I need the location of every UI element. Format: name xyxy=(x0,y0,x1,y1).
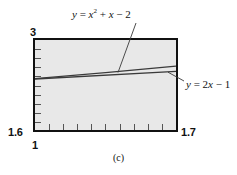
x-axis-tick xyxy=(91,124,92,130)
x-axis-max-label: 1.7 xyxy=(181,126,196,138)
line-minus: − xyxy=(216,78,222,90)
parabola-linear-term: x xyxy=(109,8,114,20)
figure-caption: (c) xyxy=(0,152,237,163)
x-axis-tick xyxy=(77,124,78,130)
y-axis-tick xyxy=(35,86,41,87)
y-axis-tick xyxy=(35,76,41,77)
y-axis-tick xyxy=(35,122,41,123)
y-axis-tick xyxy=(35,104,41,105)
parabola-minus: − xyxy=(116,8,122,20)
line-constant: 1 xyxy=(225,78,231,90)
x-axis-tick xyxy=(162,124,163,130)
parabola-exponent: 2 xyxy=(94,7,98,15)
x-axis-tick xyxy=(105,124,106,130)
parabola-plus: + xyxy=(100,8,106,20)
parabola-equation-label: y = x2 + x − 2 xyxy=(72,8,131,20)
figure-container: 3 1.6 1 1.7 y = x2 + x − 2 y = 2x − 1 (c… xyxy=(0,0,237,175)
line-variable: x xyxy=(208,78,213,90)
y-axis-tick xyxy=(35,58,41,59)
parabola-constant: 2 xyxy=(125,8,131,20)
x-axis-tick xyxy=(134,124,135,130)
x-axis-tick xyxy=(148,124,149,130)
y-axis-tick xyxy=(35,95,41,96)
x-axis-tick xyxy=(63,124,64,130)
y-axis-tick xyxy=(35,113,41,114)
y-axis-min-label: 1.6 xyxy=(8,126,23,138)
plot-frame xyxy=(33,38,178,132)
x-axis-tick xyxy=(49,124,50,130)
x-axis-min-label: 1 xyxy=(32,139,38,151)
line-lhs: y xyxy=(186,78,191,90)
line-equals: = xyxy=(194,78,200,90)
y-axis-max-label: 3 xyxy=(30,26,36,38)
line-equation-label: y = 2x − 1 xyxy=(186,78,230,90)
parabola-equals: = xyxy=(80,8,86,20)
x-axis-tick xyxy=(120,124,121,130)
y-axis-tick xyxy=(35,67,41,68)
parabola-lhs: y xyxy=(72,8,77,20)
y-axis-tick xyxy=(35,49,41,50)
